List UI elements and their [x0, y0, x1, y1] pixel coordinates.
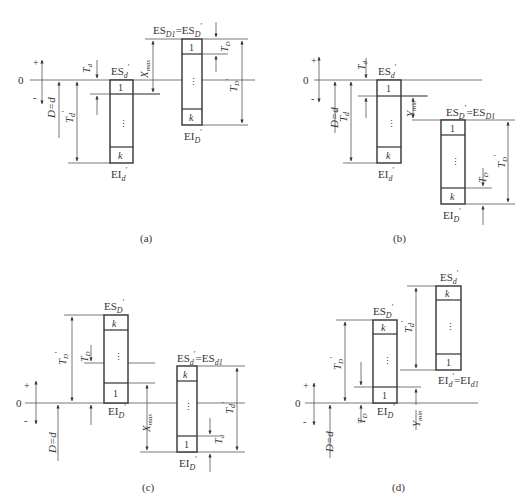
- zero-label: 0: [295, 397, 301, 409]
- hole-upper-label: ESD′: [104, 298, 125, 315]
- cell-dots: ⋮: [446, 322, 455, 332]
- hole-upper-label: ESD′=ESD1: [446, 104, 495, 121]
- hole-lower-label: EID′: [108, 403, 126, 420]
- cell-1: 1: [382, 390, 387, 401]
- plus-label: +: [33, 57, 39, 68]
- panel-a: 0 + - D=d Td′ Td 1 ⋮ k ESd′ EId′ Xmax: [18, 22, 255, 245]
- zero-label: 0: [16, 397, 22, 409]
- cell-dots: ⋮: [189, 77, 198, 87]
- hole-lower-label: EID′: [184, 128, 202, 145]
- tolerance-zone-diagram: 0 + - D=d Td′ Td 1 ⋮ k ESd′ EId′ Xmax: [0, 0, 521, 501]
- td-label: Td: [356, 60, 369, 70]
- plus-label: +: [24, 380, 30, 391]
- TD-prime-label: TD′: [54, 352, 70, 365]
- cell-dots: ⋮: [184, 402, 193, 412]
- TD-label: TD: [219, 41, 232, 52]
- cell-k: k: [118, 150, 123, 161]
- td-prime-label: Td′: [400, 321, 416, 333]
- TD-prime-label: TD′: [329, 357, 345, 370]
- cell-1: 1: [189, 42, 194, 53]
- zero-label: 0: [18, 74, 24, 86]
- hole-upper-label: ESD′: [373, 303, 394, 320]
- plus-label: +: [311, 55, 317, 66]
- cell-dots: ⋮: [387, 119, 396, 129]
- shaft-upper-label: ESd′=ESd1: [177, 350, 223, 367]
- minus-label: -: [303, 416, 306, 427]
- zero-label: 0: [303, 74, 309, 86]
- cell-dots: ⋮: [114, 352, 123, 362]
- cell-dots: ⋮: [119, 119, 128, 129]
- TD-label: TD: [477, 172, 490, 183]
- cell-k: k: [381, 322, 386, 333]
- hole-upper-label: ESD1=ESD′: [153, 22, 202, 39]
- shaft-lower-label: EId′=EId1: [438, 372, 479, 389]
- panel-b: 0 + - D=d Td′ Td 1 ⋮ k ESd′ EId′ Ymin 1 …: [303, 55, 515, 245]
- caption-c: (c): [142, 481, 155, 494]
- panel-d: 0 + - D=d TD′ TD k ⋮ 1 ESD′ EID′ Ymin Td…: [295, 269, 479, 494]
- shaft-upper-label: ESd′: [111, 63, 130, 80]
- basic-size-label: D=d: [46, 432, 58, 454]
- ymin-label: Ymin: [404, 100, 418, 117]
- cell-1: 1: [450, 123, 455, 134]
- cell-1: 1: [386, 83, 391, 94]
- plus-label: +: [303, 380, 309, 391]
- td-prime-label: Td′: [221, 402, 237, 414]
- shaft-lower-label: EId′: [378, 166, 394, 183]
- minus-label: -: [33, 92, 36, 103]
- panel-c: 0 + - D=d TD′ TD k ⋮ 1 ESD′ EID′ Xmax k …: [16, 298, 245, 494]
- shaft-upper-label: ESd′: [378, 63, 397, 80]
- shaft-upper-label: ESd′: [440, 269, 459, 286]
- TD-prime-label: TD′: [225, 79, 241, 92]
- cell-k: k: [386, 150, 391, 161]
- td-prime-label: Td′: [61, 111, 77, 123]
- cell-1: 1: [446, 357, 451, 368]
- td-prime-label: Td′: [335, 110, 351, 122]
- cell-k: k: [112, 318, 117, 329]
- xmax-label: Xmax: [140, 413, 154, 433]
- hole-lower-label: EID′: [443, 207, 461, 224]
- hole-lower-label: EID′: [377, 403, 395, 420]
- caption-b: (b): [393, 232, 406, 245]
- cell-dots: ⋮: [451, 157, 460, 167]
- shaft-lower-label: EId′: [111, 166, 127, 183]
- cell-1: 1: [113, 388, 118, 399]
- cell-k: k: [450, 191, 455, 202]
- minus-label: -: [311, 93, 314, 104]
- TD-label: TD: [79, 351, 92, 362]
- cell-1: 1: [184, 439, 189, 450]
- xmax-label: Xmax: [138, 59, 152, 79]
- basic-size-label: D=d: [45, 97, 57, 119]
- caption-d: (d): [392, 481, 405, 494]
- cell-1: 1: [118, 82, 123, 93]
- TD-label: TD: [356, 413, 369, 424]
- minus-label: -: [24, 415, 27, 426]
- td-label: Td: [81, 63, 94, 73]
- cell-k: k: [445, 288, 450, 299]
- ymin-label: Ymin: [410, 410, 424, 427]
- caption-a: (a): [140, 232, 153, 245]
- TD-prime-label: TD′: [493, 155, 509, 168]
- basic-size-label: D=d: [323, 431, 335, 453]
- shaft-lower-label: EID′: [179, 455, 197, 472]
- cell-k: k: [183, 369, 188, 380]
- cell-k: k: [189, 112, 194, 123]
- cell-dots: ⋮: [383, 356, 392, 366]
